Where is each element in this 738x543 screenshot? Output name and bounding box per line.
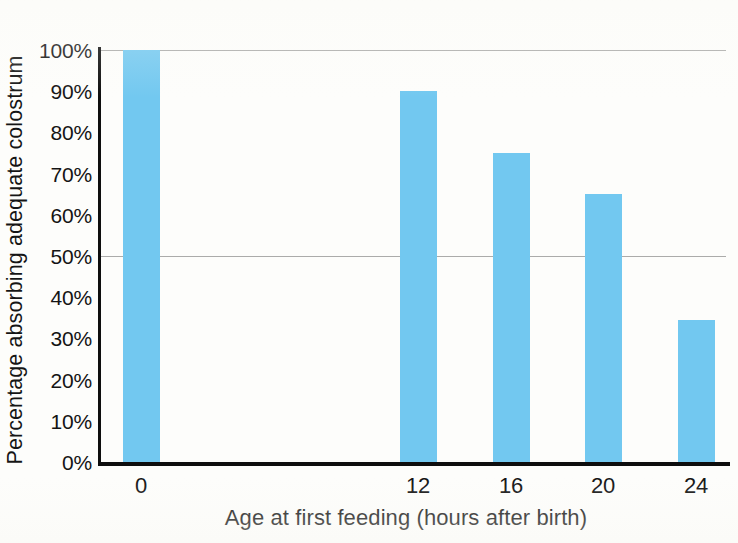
bar: [585, 194, 622, 462]
y-axis-tick-label: 80%: [8, 122, 92, 143]
bar: [400, 91, 437, 462]
y-axis-tick-label: 0%: [8, 452, 92, 473]
y-axis-tick-label: 40%: [8, 287, 92, 308]
y-axis-tick-label: 10%: [8, 411, 92, 432]
y-axis-tick-label: 100%: [8, 40, 92, 61]
x-axis-tick-label: 0: [135, 473, 147, 499]
x-axis-title: Age at first feeding (hours after birth): [96, 505, 716, 531]
bar-chart: Percentage absorbing adequate colostrum …: [0, 0, 738, 543]
x-axis-tick-label: 24: [684, 473, 708, 499]
gridline: [100, 50, 726, 51]
y-axis-tick-label: 70%: [8, 164, 92, 185]
y-axis-tick-label: 50%: [8, 246, 92, 267]
x-axis-tick-label: 20: [591, 473, 615, 499]
bar: [493, 153, 530, 462]
y-axis-tick-label: 60%: [8, 205, 92, 226]
x-axis-tick-label: 16: [499, 473, 523, 499]
y-axis-tick-label: 90%: [8, 81, 92, 102]
x-axis-tick-label: 12: [406, 473, 430, 499]
y-axis-tick-label: 20%: [8, 370, 92, 391]
bar: [678, 320, 715, 462]
y-axis-line: [98, 47, 101, 465]
x-axis-line: [98, 462, 730, 466]
plot-area: [100, 50, 726, 462]
bar: [123, 50, 160, 462]
y-axis-tick-label: 30%: [8, 328, 92, 349]
